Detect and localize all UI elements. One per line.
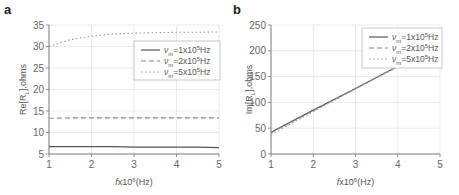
x-tick-label: 3 bbox=[353, 159, 359, 170]
series-line-1 bbox=[49, 147, 219, 148]
panel-a: a123455101520253035fx106(Hz)Re[RL],ohmsν… bbox=[4, 2, 222, 187]
panel-label: b bbox=[233, 2, 241, 17]
x-tick-label: 2 bbox=[310, 159, 316, 170]
x-axis-label: fx106(Hz) bbox=[337, 177, 374, 187]
legend: νm=1x105Hzνm=2x105Hzνm=5x105Hz bbox=[134, 41, 220, 80]
panel-label: a bbox=[4, 2, 12, 17]
y-tick-label: 5 bbox=[38, 149, 44, 160]
y-axis-label: Re[RL],ohms bbox=[18, 64, 30, 115]
x-tick-label: 2 bbox=[89, 159, 95, 170]
x-tick-label: 1 bbox=[268, 159, 274, 170]
x-tick-label: 5 bbox=[216, 159, 222, 170]
y-tick-label: 250 bbox=[249, 20, 266, 31]
y-tick-label: 35 bbox=[33, 20, 45, 31]
x-tick-label: 4 bbox=[174, 159, 180, 170]
y-tick-label: 20 bbox=[33, 84, 45, 95]
y-tick-label: 25 bbox=[33, 63, 45, 74]
y-tick-label: 0 bbox=[260, 149, 266, 160]
y-tick-label: 200 bbox=[249, 45, 266, 56]
figure: a123455101520253035fx106(Hz)Re[RL],ohmsν… bbox=[0, 0, 459, 195]
x-tick-label: 3 bbox=[131, 159, 137, 170]
x-tick-label: 1 bbox=[46, 159, 52, 170]
panel-b: b12345050100150200250fx106(Hz)Im[RL],ohm… bbox=[233, 2, 443, 187]
x-axis-label: fx106(Hz) bbox=[115, 177, 152, 187]
y-tick-label: 15 bbox=[33, 106, 45, 117]
y-tick-label: 10 bbox=[33, 127, 45, 138]
legend: νm=1x105Hzνm=2x105Hzνm=5x105Hz bbox=[362, 28, 442, 68]
x-tick-label: 5 bbox=[437, 159, 443, 170]
y-tick-label: 50 bbox=[255, 123, 267, 134]
y-tick-label: 30 bbox=[33, 41, 45, 52]
x-tick-label: 4 bbox=[395, 159, 401, 170]
